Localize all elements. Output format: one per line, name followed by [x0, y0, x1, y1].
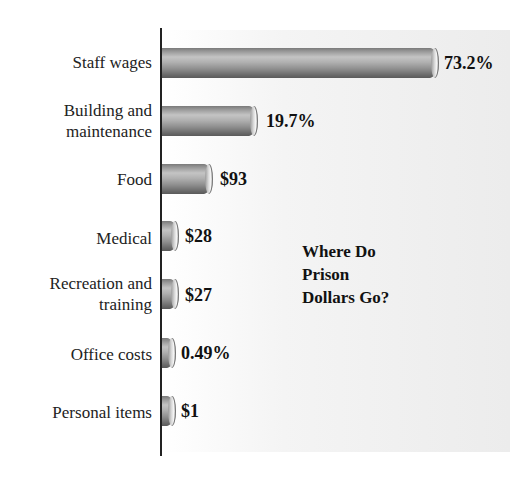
bar-recreation-training	[162, 279, 177, 309]
bar-end-cap	[431, 48, 439, 78]
bar-end-cap	[250, 106, 258, 136]
value-label-building-maintenance: 19.7%	[266, 106, 316, 136]
value-label-medical: $28	[185, 221, 212, 251]
bar-end-cap	[205, 164, 213, 194]
bar-building-maintenance	[162, 106, 256, 136]
bar-staff-wages	[162, 48, 437, 78]
value-label-office-costs: 0.49%	[181, 338, 231, 368]
category-label-personal-items: Personal items	[52, 402, 152, 423]
chart-title: Where Do Prison Dollars Go?	[302, 240, 389, 309]
bar-food	[162, 164, 211, 194]
bar-office-costs	[162, 338, 174, 368]
bar-end-cap	[171, 221, 179, 251]
category-label-staff-wages: Staff wages	[73, 52, 152, 73]
bar-personal-items	[162, 396, 174, 426]
bar-end-cap	[171, 279, 179, 309]
value-label-recreation-training: $27	[185, 280, 212, 310]
category-label-medical: Medical	[96, 228, 152, 249]
bar-end-cap	[168, 338, 176, 368]
category-label-building-maintenance: Building and maintenance	[64, 100, 152, 142]
category-label-food: Food	[117, 169, 152, 190]
category-label-recreation-training: Recreation and training	[50, 273, 152, 315]
value-label-staff-wages: 73.2%	[444, 48, 494, 78]
category-label-office-costs: Office costs	[71, 344, 152, 365]
value-label-personal-items: $1	[181, 396, 199, 426]
value-label-food: $93	[220, 164, 247, 194]
bar-medical	[162, 221, 177, 251]
bar-end-cap	[168, 396, 176, 426]
